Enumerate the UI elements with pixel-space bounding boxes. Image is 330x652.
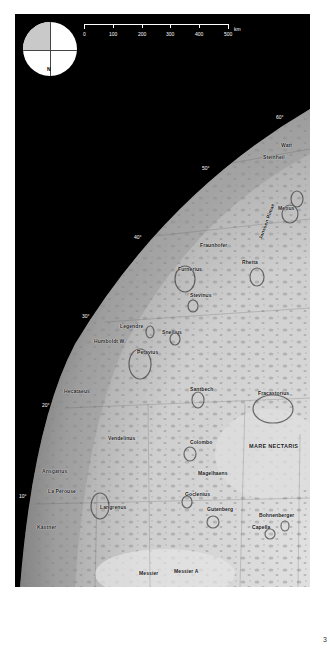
feature-label-messier-a: Messier A (174, 568, 198, 574)
feature-label-kastner: Kästner (37, 524, 56, 530)
scale-bar: 0 100 200 300 400 500 km (84, 24, 229, 44)
feature-label-colombo: Colombo (190, 439, 212, 445)
feature-label-magelhaens: Magelhaens (198, 470, 228, 476)
locator-globe: N (23, 22, 77, 76)
feature-label-metius: Metius (278, 205, 294, 211)
feature-label-steinheil: Steinheil (263, 154, 285, 160)
feature-label-watt: Watt (281, 142, 292, 148)
feature-label-la-perouse: La Pérouse (48, 488, 76, 494)
feature-label-rheita: Rheita (242, 259, 258, 265)
feature-label-messier: Messier (139, 570, 158, 576)
feature-label-fraunhofer: Fraunhofer (200, 242, 227, 248)
lat-label-20: 20° (42, 402, 50, 408)
scale-tick (228, 24, 229, 29)
feature-label-capella: Capella (252, 524, 271, 530)
lat-label-30: 30° (82, 313, 90, 319)
feature-label-langrenus: Langrenus (100, 504, 126, 510)
moon-surface-map (15, 14, 310, 587)
feature-label-furnerius: Furnerius (178, 266, 202, 272)
feature-label-hecataeus: Hecataeus (64, 388, 90, 394)
scale-label-400: 400 (195, 31, 203, 37)
page-number: 3 (323, 636, 327, 643)
scale-label-100: 100 (109, 31, 117, 37)
feature-label-stevinus: Stevinus (190, 292, 212, 298)
locator-highlight (23, 22, 50, 50)
feature-label-mare-nectaris: MARE NECTARIS (249, 443, 298, 449)
scale-label-500: 500 (224, 31, 232, 37)
feature-label-bohnenberger: Bohnenberger (259, 512, 294, 518)
feature-label-santbech: Santbech (190, 386, 213, 392)
scale-tick (199, 24, 200, 28)
scale-label-200: 200 (138, 31, 146, 37)
scale-label-300: 300 (166, 31, 174, 37)
scale-label-0: 0 (83, 31, 86, 37)
lat-label-40: 40° (134, 234, 142, 240)
scale-tick (84, 24, 85, 29)
lat-label-10: 10° (19, 493, 27, 499)
scale-tick (113, 24, 114, 28)
scale-line (84, 24, 229, 25)
feature-label-vendelinus: Vendelinus (108, 435, 135, 441)
lat-label-60: 60° (276, 114, 284, 120)
feature-label-ansgarius: Ansgarius (42, 468, 67, 474)
scale-tick (142, 24, 143, 28)
feature-label-legendre: Legendre (120, 323, 143, 329)
lat-label-50: 50° (202, 165, 210, 171)
north-label: N (47, 66, 51, 72)
scale-tick (170, 24, 171, 28)
feature-label-gutenberg: Gutenberg (207, 506, 233, 512)
feature-label-humboldt: Humboldt W. (94, 338, 126, 344)
map-frame: N 0 100 200 300 400 500 km 60° 50° 40° 3… (15, 14, 310, 587)
feature-label-fracastorius: Fracastorius (258, 390, 289, 396)
feature-label-goclenius: Goclenius (185, 491, 210, 497)
scale-unit: km (234, 26, 241, 32)
feature-label-petavius: Petavius (137, 349, 158, 355)
feature-label-snellius: Snellius (162, 329, 182, 335)
